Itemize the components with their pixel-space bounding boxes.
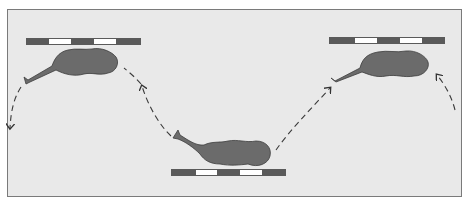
path-bottom-to-right-arrow bbox=[276, 88, 330, 150]
organism-left bbox=[24, 49, 118, 84]
organism-right bbox=[331, 51, 428, 82]
scale-bar-left bbox=[26, 38, 141, 45]
path-right-up-arrow bbox=[437, 75, 455, 110]
diagram-canvas bbox=[0, 0, 467, 211]
motion-paths bbox=[10, 68, 455, 150]
scale-bar-bottom bbox=[171, 169, 286, 176]
organism-bottom bbox=[173, 130, 270, 166]
path-left-down-arrow bbox=[10, 87, 21, 128]
scale-bar-right bbox=[329, 37, 445, 44]
path-left-upper bbox=[124, 68, 141, 84]
path-bottom-to-left-arrow bbox=[142, 86, 171, 136]
